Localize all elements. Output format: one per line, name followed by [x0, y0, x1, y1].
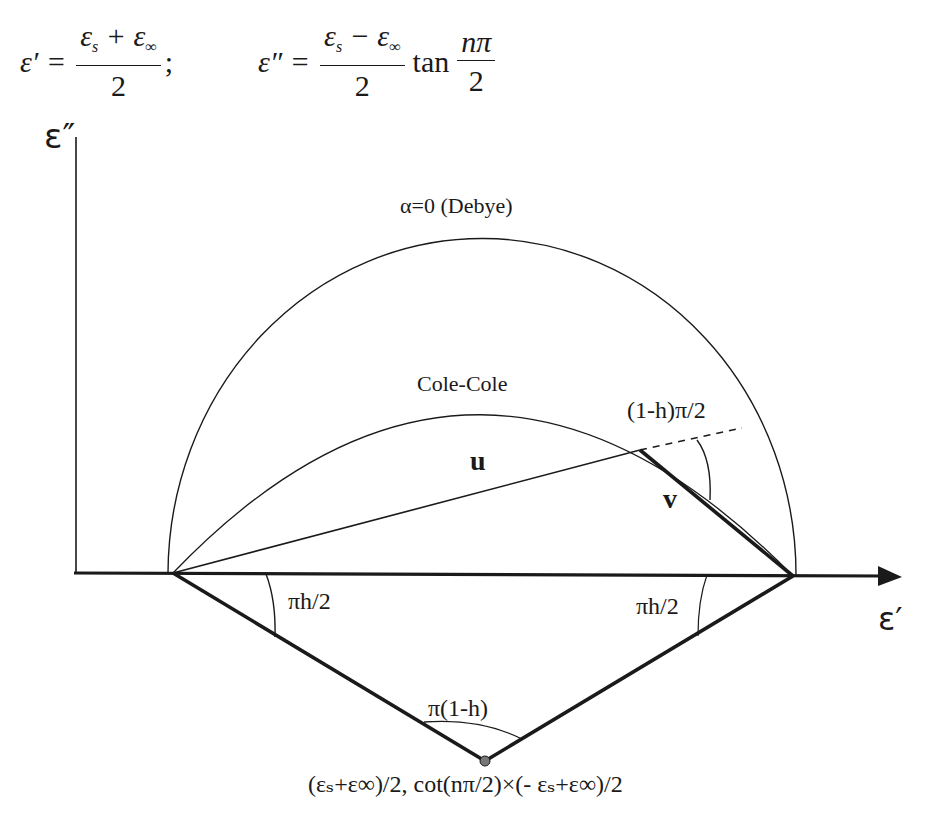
angle-label-bottom: π(1-h) — [428, 695, 488, 722]
x-axis-arrowhead-icon — [878, 566, 902, 586]
angle-arc-top — [697, 440, 710, 500]
x-axis-label: ε′ — [878, 600, 903, 638]
angle-label-right: πh/2 — [636, 593, 679, 620]
vector-u-line — [173, 450, 640, 573]
cole-cole-label: Cole-Cole — [417, 371, 507, 397]
cole-cole-arc — [173, 415, 793, 576]
vector-u-label: u — [470, 445, 486, 477]
angle-arc-left — [266, 574, 275, 637]
u-extension-dashed — [640, 428, 742, 450]
angle-label-left: πh/2 — [288, 588, 331, 615]
vector-v-label: v — [663, 483, 677, 515]
debye-label: α=0 (Debye) — [400, 193, 513, 219]
angle-label-top: (1-h)π/2 — [627, 397, 706, 424]
center-point-caption: (εₛ+ε∞)/2, cot(nπ/2)×(- εₛ+ε∞)/2 — [308, 770, 623, 798]
angle-arc-bottom — [424, 721, 522, 739]
center-point-dot — [480, 756, 490, 766]
y-axis-label: ε″ — [44, 116, 75, 156]
x-axis — [74, 573, 888, 576]
